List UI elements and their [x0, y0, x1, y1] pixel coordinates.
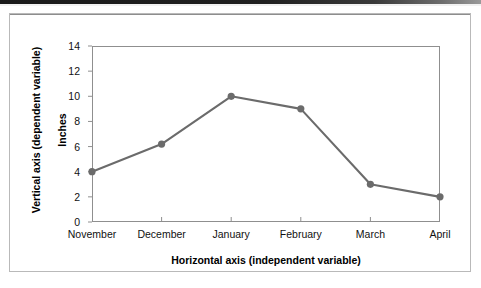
data-point-marker	[158, 140, 165, 147]
data-point-marker	[228, 93, 235, 100]
data-point-marker	[436, 193, 443, 200]
data-series-line	[92, 96, 440, 197]
y-tick-label: 2	[54, 192, 80, 202]
data-point-markers	[88, 93, 443, 201]
x-tick-label: February	[280, 228, 322, 240]
y-tick-label: 12	[54, 66, 80, 76]
y-tick-label: 6	[54, 142, 80, 152]
data-point-marker	[367, 181, 374, 188]
y-tick-marks	[88, 46, 92, 222]
y-tick-label: 10	[54, 91, 80, 101]
y-tick-label: 8	[54, 116, 80, 126]
data-point-marker	[297, 105, 304, 112]
x-tick-label: January	[213, 228, 250, 240]
line-chart: Vertical axis (dependent variable) Inche…	[0, 0, 481, 288]
x-tick-label: December	[137, 228, 185, 240]
data-point-marker	[88, 168, 95, 175]
x-tick-label: April	[429, 228, 450, 240]
y-tick-label: 0	[54, 217, 80, 227]
x-axis-caption: Horizontal axis (independent variable)	[92, 254, 440, 266]
x-tick-marks	[162, 217, 371, 222]
x-tick-label: November	[68, 228, 116, 240]
y-tick-label: 14	[54, 41, 80, 51]
y-tick-label: 4	[54, 167, 80, 177]
x-tick-label: March	[356, 228, 385, 240]
